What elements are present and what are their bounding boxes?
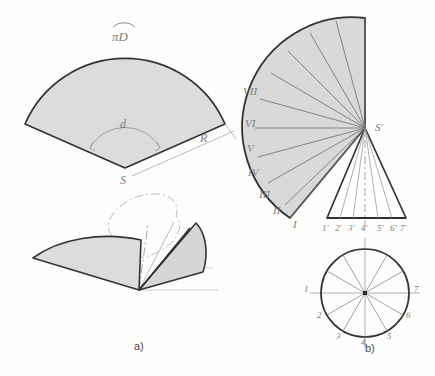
figure-canvas: πD d R S a) [0, 0, 435, 376]
plan-radial [327, 271, 365, 293]
label-roman-iv: IV [247, 166, 260, 178]
technical-drawing-figure: πD d R S a) [0, 0, 435, 376]
label-roman-i: I [292, 218, 298, 230]
plan-radial [365, 293, 387, 331]
label-base-2p: 2' [335, 223, 343, 233]
label-roman-ii: II [272, 204, 282, 216]
plan-radial [365, 255, 387, 293]
label-plan-7: 7 [414, 284, 419, 294]
caption-a: a) [134, 340, 144, 352]
label-base-1p: 1' [322, 223, 330, 233]
label-plan-1: 1 [304, 284, 309, 294]
radius-dim-extension [225, 124, 236, 139]
label-apex-s: S [120, 173, 126, 187]
label-base-7p: 7' [400, 223, 408, 233]
label-radius-r: R [199, 131, 208, 145]
plan-radial [343, 293, 365, 331]
label-plan-6: 6 [406, 310, 411, 320]
label-base-4p: 4' [361, 223, 369, 233]
plan-radial [343, 255, 365, 293]
label-roman-vii: VII [243, 85, 258, 97]
unrolled-shell-left [33, 236, 141, 290]
label-roman-vi: VI [245, 117, 257, 129]
label-plan-5: 5 [387, 331, 392, 341]
label-plan-2: 2 [317, 310, 322, 320]
cone-development-sector [25, 58, 225, 168]
label-arc-pid: πD [112, 29, 129, 44]
caption-b: b) [365, 342, 375, 354]
plan-centre-marker [363, 291, 367, 295]
label-roman-iii: III [258, 188, 271, 200]
panel-a-pictorial-group [33, 194, 218, 290]
label-base-3p: 3' [347, 223, 356, 233]
plan-radial [327, 293, 365, 315]
panel-a-sector-group: πD d R S [25, 23, 236, 187]
label-plan-3: 3 [335, 331, 341, 341]
unrolled-shell-right [139, 223, 206, 290]
arc-over-pid [113, 23, 135, 27]
plan-radial [365, 293, 403, 315]
panel-b-plan-group: 1 2 3 4 5 6 7 [304, 238, 420, 348]
label-angle-d: d [120, 117, 127, 131]
label-apex-s-prime: S' [375, 121, 384, 133]
label-base-5p: 5' [377, 223, 385, 233]
label-base-6p: 6' [390, 223, 398, 233]
plan-radial [365, 271, 403, 293]
